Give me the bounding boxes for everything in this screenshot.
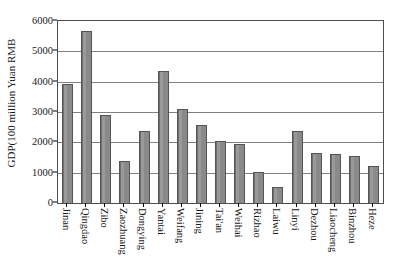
x-tick-label: Dezhou: [309, 208, 319, 241]
y-axis-title: GDP(100 million Yuan RMB: [0, 0, 22, 205]
bar[interactable]: [349, 156, 360, 203]
x-tick-mark: [257, 203, 258, 207]
y-axis-title-text: GDP(100 million Yuan RMB: [5, 38, 17, 167]
x-tick-label: Weihai: [233, 208, 243, 237]
x-label-slot: Zaozhuang: [114, 208, 133, 274]
y-axis-tick-labels: 6000500040003000200010000: [20, 14, 57, 208]
plot-area: [57, 20, 384, 204]
y-tick-label: 1000: [32, 166, 53, 177]
gdp-bar-chart: GDP(100 million Yuan RMB 600050004000300…: [0, 0, 396, 276]
bar[interactable]: [139, 131, 150, 203]
bar-slot: [211, 21, 230, 203]
bar-slot: [326, 21, 345, 203]
x-tick-mark: [104, 203, 105, 207]
bar-slot: [288, 21, 307, 203]
x-tick-label: Liaocheng: [328, 208, 338, 252]
x-tick-label: Heze: [367, 208, 377, 230]
x-axis-tick-labels: JinanQingdaoZiboZaozhuangDongyingYantaiW…: [57, 208, 382, 274]
x-label-slot: Liaocheng: [325, 208, 344, 274]
x-label-slot: Zibo: [95, 208, 114, 274]
bar[interactable]: [62, 84, 73, 203]
bar[interactable]: [81, 31, 92, 203]
x-tick-mark: [238, 203, 239, 207]
x-label-slot: Jining: [191, 208, 210, 274]
x-tick-mark: [219, 203, 220, 207]
x-label-slot: Rizhao: [248, 208, 267, 274]
y-tick-label: 4000: [32, 75, 53, 86]
x-tick-mark: [372, 203, 373, 207]
x-tick-label: Linyi: [290, 208, 300, 231]
x-label-slot: Jinan: [57, 208, 76, 274]
x-tick-mark: [276, 203, 277, 207]
bar-slot: [192, 21, 211, 203]
bar-slot: [154, 21, 173, 203]
x-tick-mark: [200, 203, 201, 207]
x-tick-label: Zibo: [99, 208, 109, 228]
bar[interactable]: [253, 172, 264, 203]
bar-slot: [307, 21, 326, 203]
bar-slot: [345, 21, 364, 203]
x-tick-mark: [334, 203, 335, 207]
bar-slot: [364, 21, 383, 203]
x-tick-mark: [353, 203, 354, 207]
x-tick-mark: [123, 203, 124, 207]
bar-slot: [173, 21, 192, 203]
bar-slot: [77, 21, 96, 203]
x-label-slot: Dongying: [134, 208, 153, 274]
x-tick-mark: [143, 203, 144, 207]
bar[interactable]: [272, 187, 283, 203]
x-label-slot: Weihai: [229, 208, 248, 274]
bar[interactable]: [215, 141, 226, 203]
bar[interactable]: [311, 153, 322, 203]
x-label-slot: Dezhou: [306, 208, 325, 274]
y-tick-label: 5000: [32, 45, 53, 56]
x-tick-label: Rizhao: [252, 208, 262, 238]
bar-slot: [135, 21, 154, 203]
x-tick-mark: [315, 203, 316, 207]
bar[interactable]: [368, 166, 379, 203]
bar[interactable]: [158, 71, 169, 203]
x-tick-mark: [181, 203, 182, 207]
x-tick-label: Jinan: [61, 208, 71, 230]
x-label-slot: Binzhou: [344, 208, 363, 274]
x-label-slot: Linyi: [287, 208, 306, 274]
bar-slot: [115, 21, 134, 203]
x-label-slot: Tai'an: [210, 208, 229, 274]
x-tick-mark: [162, 203, 163, 207]
x-tick-label: Binzhou: [347, 208, 357, 244]
bar[interactable]: [100, 115, 111, 203]
bars-layer: [58, 21, 383, 203]
x-tick-label: Dongying: [137, 208, 147, 250]
bar-slot: [58, 21, 77, 203]
x-tick-label: Qingdao: [80, 208, 90, 244]
y-tick-label: 2000: [32, 136, 53, 147]
x-label-slot: Heze: [363, 208, 382, 274]
bar[interactable]: [292, 131, 303, 203]
bar-slot: [96, 21, 115, 203]
bar[interactable]: [177, 109, 188, 203]
y-tick-label: 6000: [32, 15, 53, 26]
x-tick-mark: [85, 203, 86, 207]
x-tick-mark: [296, 203, 297, 207]
y-tick-label: 3000: [32, 106, 53, 117]
x-label-slot: Weifang: [172, 208, 191, 274]
x-tick-label: Jining: [194, 208, 204, 234]
bar-slot: [230, 21, 249, 203]
bar[interactable]: [330, 154, 341, 203]
x-tick-label: Yantai: [156, 208, 166, 235]
bar[interactable]: [196, 125, 207, 203]
bar[interactable]: [119, 161, 130, 203]
x-tick-label: Zaozhuang: [118, 208, 128, 255]
x-tick-label: Tai'an: [214, 208, 224, 233]
x-tick-mark: [66, 203, 67, 207]
bar-slot: [249, 21, 268, 203]
x-label-slot: Laiwu: [267, 208, 286, 274]
x-label-slot: Qingdao: [76, 208, 95, 274]
bar-slot: [268, 21, 287, 203]
x-label-slot: Yantai: [153, 208, 172, 274]
x-tick-label: Weifang: [175, 208, 185, 243]
bar[interactable]: [234, 144, 245, 203]
x-tick-label: Laiwu: [271, 208, 281, 235]
